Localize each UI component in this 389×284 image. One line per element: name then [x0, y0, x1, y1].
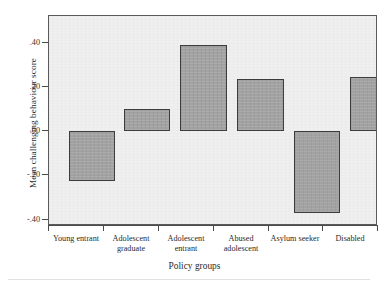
x-tick-label-disabled: Disabled [312, 234, 388, 244]
bar-abused-adolescent [237, 79, 284, 131]
bar-disabled [350, 77, 377, 131]
x-tick-mark-0 [48, 225, 49, 231]
bar-adolescent-entrant [180, 45, 227, 131]
bar-asylum-seeker [294, 131, 340, 213]
y-axis-title: Mean challenging behaviour score [28, 18, 38, 228]
plot-area [48, 15, 377, 225]
bar-young-entrant [69, 131, 115, 181]
scan-edge-artifact [8, 279, 370, 280]
bar-adolescent-graduate [124, 109, 170, 131]
y-tick-label-0: .40 [0, 38, 40, 47]
y-tick-label-4: -.40 [0, 215, 40, 224]
y-tick-label-1: .20 [0, 82, 40, 91]
x-tick-mark-1 [103, 225, 104, 231]
y-tick-label-3: -.20 [0, 170, 40, 179]
bar-chart-figure: Mean challenging behaviour score .40 .20… [0, 0, 389, 284]
x-tick-mark-6 [377, 225, 378, 231]
x-tick-mark-4 [268, 225, 269, 231]
x-tick-mark-2 [158, 225, 159, 231]
x-tick-mark-3 [213, 225, 214, 231]
x-axis-title: Policy groups [0, 261, 389, 271]
y-tick-label-2: .00 [0, 126, 40, 135]
x-tick-mark-5 [322, 225, 323, 231]
